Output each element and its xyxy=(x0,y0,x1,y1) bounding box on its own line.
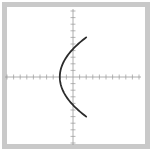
chart-svg xyxy=(0,0,155,156)
axes xyxy=(5,9,141,145)
caption xyxy=(0,150,155,156)
